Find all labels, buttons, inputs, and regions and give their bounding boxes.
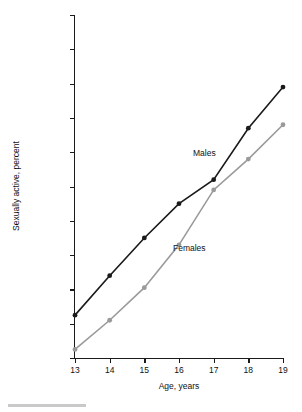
series-lines (75, 15, 283, 358)
y-axis-title: Sexually active, percent (11, 141, 21, 231)
x-tick-label: 19 (271, 365, 295, 375)
x-tick-label: 16 (167, 365, 191, 375)
x-tick-label: 15 (132, 365, 156, 375)
cropped-caption-sliver (8, 404, 86, 407)
x-tick-label: 13 (63, 365, 87, 375)
data-point-males (281, 85, 286, 90)
x-tick-mark (248, 358, 249, 363)
data-point-females (107, 318, 112, 323)
x-tick-mark (179, 358, 180, 363)
data-point-females (142, 285, 147, 290)
data-point-females (281, 122, 286, 127)
data-point-males (107, 273, 112, 278)
plot-area: 0102030405060708090100 13141516171819 (75, 15, 283, 358)
x-tick-label: 18 (236, 365, 260, 375)
data-point-females (211, 188, 216, 193)
x-tick-mark (144, 358, 145, 363)
data-point-males (177, 201, 182, 206)
data-point-males (246, 126, 251, 131)
x-tick-mark (110, 358, 111, 363)
x-axis-title: Age, years (159, 381, 200, 391)
series-label-females: Females (173, 243, 206, 253)
data-point-females (246, 157, 251, 162)
x-tick-label: 14 (98, 365, 122, 375)
x-tick-mark (75, 358, 76, 363)
x-tick-mark (214, 358, 215, 363)
series-label-males: Males (193, 148, 216, 158)
series-line-females (75, 125, 283, 350)
data-point-females (73, 347, 78, 352)
data-point-males (211, 177, 216, 182)
series-line-males (75, 87, 283, 315)
data-point-males (73, 313, 78, 318)
figure-chart: 0102030405060708090100 13141516171819 Se… (0, 0, 302, 412)
x-tick-mark (283, 358, 284, 363)
data-point-males (142, 236, 147, 241)
x-tick-label: 17 (202, 365, 226, 375)
